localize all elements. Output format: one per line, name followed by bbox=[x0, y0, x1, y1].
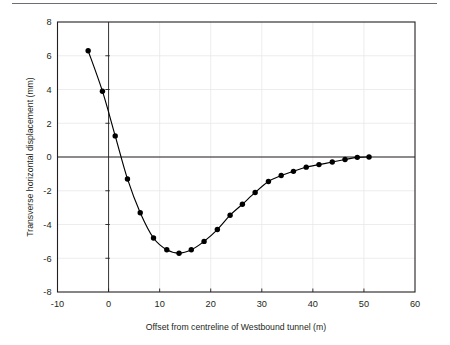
data-point bbox=[176, 250, 181, 255]
y-tick-label: -2 bbox=[43, 186, 51, 196]
y-tick-label: 0 bbox=[46, 152, 51, 162]
x-tick-label: -10 bbox=[51, 299, 64, 309]
x-tick-label: 60 bbox=[410, 299, 420, 309]
series-line bbox=[88, 51, 369, 254]
data-point bbox=[227, 213, 232, 218]
x-tick-label: 10 bbox=[155, 299, 165, 309]
line-chart: -100102030405060 -8-6-4-202468 Offset fr… bbox=[0, 0, 450, 345]
data-point bbox=[252, 190, 257, 195]
data-point bbox=[278, 173, 283, 178]
x-tick-labels: -100102030405060 bbox=[51, 299, 420, 309]
y-tick-labels: -8-6-4-202468 bbox=[43, 17, 51, 297]
data-point bbox=[291, 169, 296, 174]
y-tick-label: -8 bbox=[43, 287, 51, 297]
data-point bbox=[330, 159, 335, 164]
y-tick-label: 2 bbox=[46, 119, 51, 129]
data-point bbox=[164, 247, 169, 252]
x-tick-label: 40 bbox=[308, 299, 318, 309]
data-point bbox=[201, 239, 206, 244]
data-point bbox=[125, 176, 130, 181]
data-point bbox=[316, 162, 321, 167]
x-tick-label: 0 bbox=[106, 299, 111, 309]
data-point bbox=[240, 202, 245, 207]
data-point bbox=[215, 227, 220, 232]
x-tick-label: 20 bbox=[206, 299, 216, 309]
y-tick-label: -6 bbox=[43, 254, 51, 264]
y-axis-title: Transverse horizontal displacement (mm) bbox=[25, 77, 35, 237]
data-point bbox=[85, 48, 90, 53]
data-point bbox=[151, 235, 156, 240]
x-tick-label: 50 bbox=[359, 299, 369, 309]
x-tick-label: 30 bbox=[257, 299, 267, 309]
y-tick-label: 8 bbox=[46, 17, 51, 27]
data-point bbox=[113, 133, 118, 138]
data-point bbox=[189, 247, 194, 252]
data-point bbox=[138, 210, 143, 215]
y-tick-label: 6 bbox=[46, 51, 51, 61]
data-point bbox=[355, 155, 360, 160]
data-point bbox=[342, 157, 347, 162]
x-axis-title: Offset from centreline of Westbound tunn… bbox=[146, 322, 326, 332]
data-point bbox=[266, 179, 271, 184]
y-tick-label: -4 bbox=[43, 220, 51, 230]
y-tick-label: 4 bbox=[46, 85, 51, 95]
data-point bbox=[100, 88, 105, 93]
chart-area: -100102030405060 -8-6-4-202468 Offset fr… bbox=[0, 0, 450, 345]
figure-container: -100102030405060 -8-6-4-202468 Offset fr… bbox=[0, 0, 450, 345]
data-point bbox=[304, 164, 309, 169]
data-point bbox=[366, 154, 371, 159]
